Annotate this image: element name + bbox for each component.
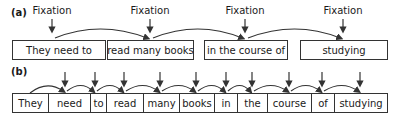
saccade-arc-a3	[248, 29, 340, 38]
arrows-overlay	[0, 0, 393, 119]
saccade-arc-a1	[55, 29, 147, 38]
saccade-arc-a2	[153, 29, 242, 38]
